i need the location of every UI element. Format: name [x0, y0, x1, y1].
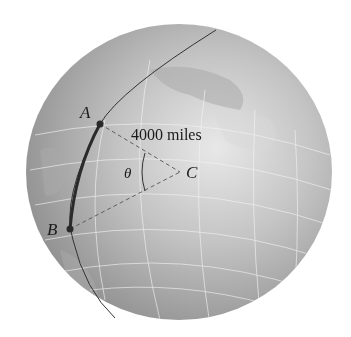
label-theta: θ [124, 165, 132, 181]
globe [26, 24, 332, 325]
point-b [67, 226, 74, 233]
globe-svg: A B C θ 4000 miles [0, 0, 351, 337]
label-distance: 4000 miles [131, 126, 202, 143]
globe-diagram: A B C θ 4000 miles [0, 0, 351, 337]
label-c: C [186, 163, 198, 182]
label-b: B [47, 220, 58, 239]
label-a: A [79, 103, 91, 122]
point-a [97, 121, 104, 128]
